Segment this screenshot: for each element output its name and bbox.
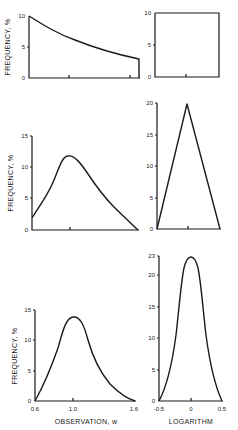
axes	[159, 256, 223, 401]
chart-top-left: FREQUENCY, % 10 5 0	[4, 13, 140, 81]
y-axis-label: FREQUENCY, %	[11, 328, 19, 385]
y-tick-label: 10	[148, 335, 155, 341]
axes	[157, 103, 221, 229]
chart-bottom-right: 23 20 15 10 5 0 -0.5 0 0.5 LOGARITHM	[148, 253, 227, 425]
y-tick-label: 5	[25, 195, 29, 201]
x-axis-label: OBSERVATION, w	[55, 418, 118, 425]
y-tick-label: 5	[152, 367, 156, 373]
y-tick-label: 10	[21, 164, 28, 170]
data-curve	[35, 317, 135, 401]
y-tick-label: 10	[146, 163, 153, 169]
tick-marks	[157, 256, 191, 401]
axes	[29, 16, 140, 78]
x-tick-label: 1.0	[69, 406, 78, 412]
y-tick-label: 5	[150, 195, 154, 201]
chart-bottom-left: FREQUENCY, % 15 10 5 0 0.6 1.0 1.6 OBSER…	[11, 307, 139, 425]
x-tick-label: 1.6	[130, 406, 139, 412]
y-tick-label: 15	[146, 132, 153, 138]
x-tick-label: -0.5	[154, 406, 165, 412]
y-tick-label: 15	[24, 307, 31, 313]
y-axis-label: FREQUENCY, %	[4, 19, 12, 76]
data-curve	[159, 257, 222, 401]
y-axis-label: FREQUENCY, %	[7, 155, 15, 212]
tick-marks	[153, 45, 186, 77]
y-tick-label: 0	[148, 74, 152, 80]
y-tick-label: 5	[22, 44, 26, 50]
figure-canvas: FREQUENCY, % 10 5 0 10 5 0 FREQUENCY, % …	[0, 0, 238, 430]
axes	[35, 310, 136, 401]
y-tick-label: 5	[28, 368, 32, 374]
data-curve	[32, 156, 138, 230]
tick-marks	[27, 47, 130, 78]
chart-middle-right: 20 15 10 5 0	[146, 100, 221, 232]
x-tick-label: 0.6	[31, 406, 40, 412]
tick-marks	[30, 136, 70, 230]
y-tick-label: 0	[22, 75, 26, 81]
tick-marks	[33, 310, 73, 401]
axes	[155, 13, 219, 77]
y-tick-label: 23	[148, 253, 155, 259]
y-tick-label: 0	[25, 227, 29, 233]
data-curve	[157, 104, 220, 229]
data-curve	[29, 16, 139, 78]
y-tick-label: 15	[148, 304, 155, 310]
chart-top-right: 10 5 0	[144, 10, 219, 80]
y-tick-label: 15	[21, 133, 28, 139]
x-tick-label: 0.5	[218, 406, 227, 412]
y-tick-label: 10	[18, 13, 25, 19]
y-tick-label: 0	[28, 398, 32, 404]
chart-middle-left: FREQUENCY, % 15 10 5 0	[7, 133, 139, 233]
y-tick-label: 0	[150, 226, 154, 232]
y-tick-label: 5	[148, 42, 152, 48]
y-tick-label: 20	[148, 272, 155, 278]
x-axis-label: LOGARITHM	[169, 418, 213, 425]
y-tick-label: 10	[24, 337, 31, 343]
y-tick-label: 10	[144, 10, 151, 16]
y-tick-label: 20	[146, 100, 153, 106]
y-tick-label: 0	[152, 398, 156, 404]
x-tick-label: 0	[189, 406, 193, 412]
